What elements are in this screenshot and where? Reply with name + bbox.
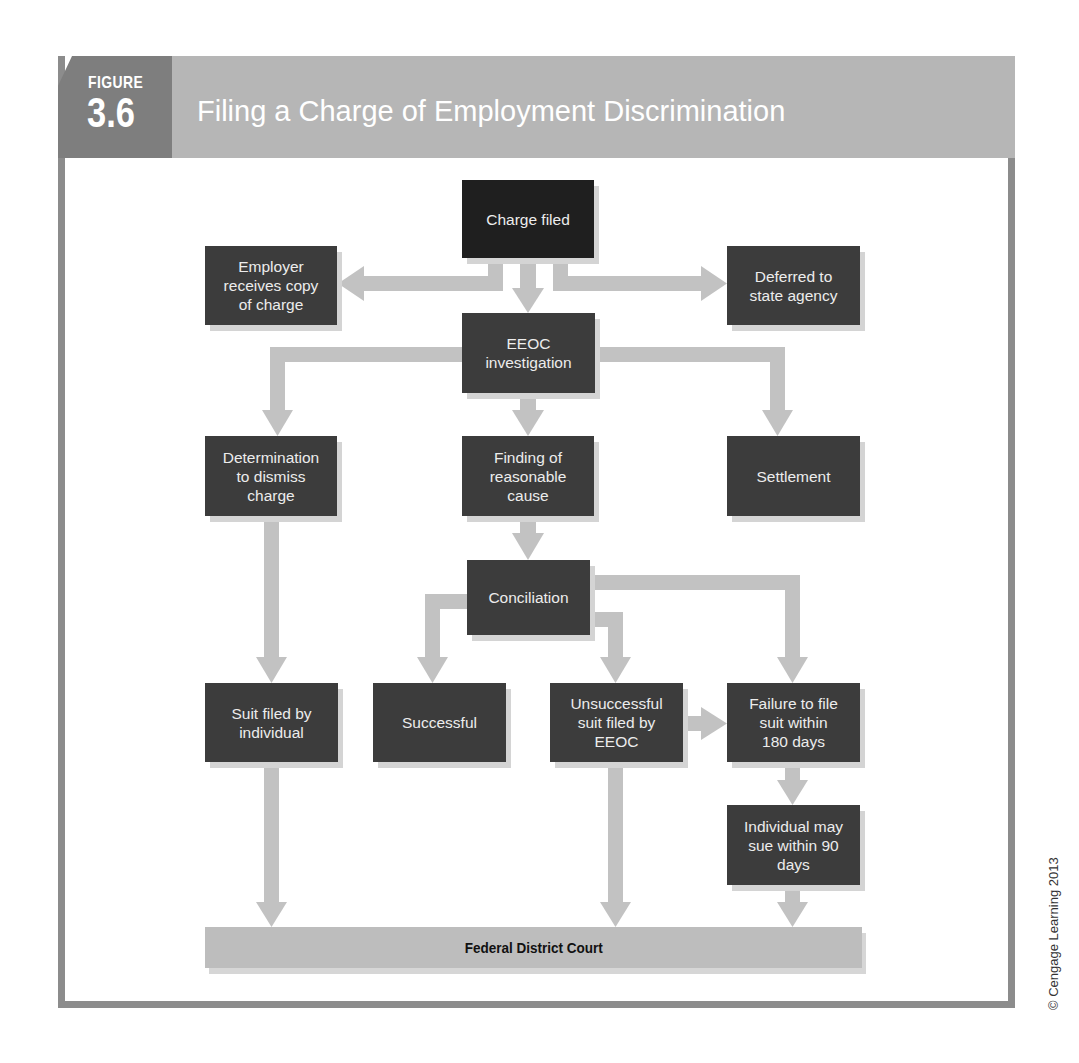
- node-label: Unsuccessful suit filed by EEOC: [570, 694, 662, 751]
- node-label: EEOC investigation: [485, 334, 571, 372]
- arrow-head-down: [262, 410, 293, 436]
- node-suit-filed-by-individual: Suit filed by individual: [205, 683, 338, 762]
- arrow-stem: [360, 276, 503, 291]
- node-label: Conciliation: [488, 588, 568, 607]
- arrow-head-down: [777, 780, 808, 805]
- node-determination-to-dismiss: Determination to dismiss charge: [205, 436, 337, 516]
- flow-arrows: [0, 0, 1079, 1063]
- node-successful: Successful: [373, 683, 506, 762]
- arrow-head-right: [701, 707, 727, 740]
- arrow-stem: [270, 347, 285, 412]
- arrow-stem: [264, 516, 279, 659]
- arrow-head-left: [338, 266, 364, 301]
- arrow-head-down: [777, 657, 808, 683]
- arrow-stem: [770, 347, 785, 412]
- node-eeoc-investigation: EEOC investigation: [462, 313, 595, 393]
- node-employer-receives-copy: Employer receives copy of charge: [205, 246, 337, 325]
- arrow-head-down: [512, 410, 544, 436]
- node-deferred-to-state-agency: Deferred to state agency: [727, 246, 860, 325]
- copyright-credit: © Cengage Learning 2013: [1046, 857, 1061, 1010]
- arrow-head-down: [777, 902, 808, 927]
- arrow-head-down: [512, 288, 544, 313]
- node-failure-to-file-180-days: Failure to file suit within 180 days: [727, 683, 860, 762]
- node-individual-may-sue-90-days: Individual may sue within 90 days: [727, 805, 860, 885]
- arrow-head-down: [762, 410, 793, 436]
- node-label: Deferred to state agency: [750, 267, 838, 305]
- arrow-stem: [785, 575, 800, 659]
- node-finding-reasonable-cause: Finding of reasonable cause: [462, 436, 594, 516]
- arrow-stem: [425, 594, 440, 659]
- node-label: Individual may sue within 90 days: [744, 817, 843, 874]
- arrow-head-down: [600, 657, 631, 683]
- node-settlement: Settlement: [727, 436, 860, 516]
- node-label: Determination to dismiss charge: [223, 448, 320, 505]
- node-label: Failure to file suit within 180 days: [749, 694, 838, 751]
- arrow-stem: [608, 762, 623, 905]
- node-label: Finding of reasonable cause: [490, 448, 567, 505]
- node-federal-district-court: Federal District Court: [205, 927, 862, 968]
- arrow-stem: [553, 276, 703, 291]
- node-conciliation: Conciliation: [467, 560, 590, 635]
- arrow-stem: [270, 347, 462, 362]
- arrow-stem: [264, 762, 279, 905]
- node-label: Charge filed: [486, 210, 570, 229]
- arrow-head-down: [512, 533, 544, 560]
- arrow-head-down: [417, 657, 448, 683]
- node-unsuccessful-suit-by-eeoc: Unsuccessful suit filed by EEOC: [550, 683, 683, 762]
- node-label: Suit filed by individual: [231, 704, 311, 742]
- arrow-head-right: [701, 266, 727, 301]
- node-label: Settlement: [756, 467, 830, 486]
- node-label: Federal District Court: [464, 939, 602, 956]
- arrow-head-down: [256, 902, 287, 927]
- arrow-head-down: [256, 657, 287, 683]
- arrow-stem: [785, 762, 800, 782]
- node-label: Employer receives copy of charge: [224, 257, 319, 314]
- arrow-stem: [595, 347, 785, 362]
- arrow-stem: [608, 612, 623, 659]
- arrow-stem: [520, 258, 536, 290]
- arrow-head-down: [600, 902, 631, 927]
- arrow-stem: [590, 575, 800, 590]
- node-charge-filed: Charge filed: [462, 180, 594, 258]
- node-label: Successful: [402, 713, 477, 732]
